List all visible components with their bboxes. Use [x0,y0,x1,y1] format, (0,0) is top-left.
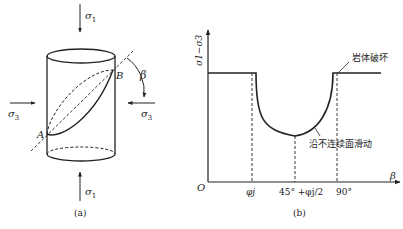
rock-failure-leader [338,62,349,73]
sigma1-top-label: σ1 [85,10,96,24]
origin-label: O [197,182,205,193]
caption-a: (a) [74,208,86,218]
cylinder-bottom-front [47,154,115,161]
x-tick-90: 90° [336,187,352,197]
sigma1-bottom-label: σ1 [85,186,96,200]
cylinder-bottom-back [47,147,115,154]
rock-failure-annotation: 岩体破坏 [352,52,388,63]
slip-annotation: 沿不连续面滑动 [309,138,372,149]
x-tick-45-plus-phi-j-half: 45° +φj/2 [279,187,323,197]
point-a-label: A [36,129,44,140]
slip-leader [315,128,320,136]
caption-b: (b) [293,208,306,218]
x-axis-label: β [389,170,396,181]
cylinder-top-ellipse [47,49,115,63]
figure-a-cylinder [10,4,155,201]
strength-curve [208,73,381,136]
plane-back-edge [47,70,113,134]
point-b-label: B [115,70,123,81]
y-axis-label: σ1−σ3 [194,34,204,66]
beta-label: β [139,69,146,82]
sigma3-right-label: σ3 [141,108,152,122]
x-tick-phi-j: φj [246,187,255,197]
figure-canvas: σ1 σ1 σ3 σ3 A B β (a) σ1−σ3 β O φj 45° +… [0,0,403,229]
sigma3-left-label: σ3 [8,108,19,122]
